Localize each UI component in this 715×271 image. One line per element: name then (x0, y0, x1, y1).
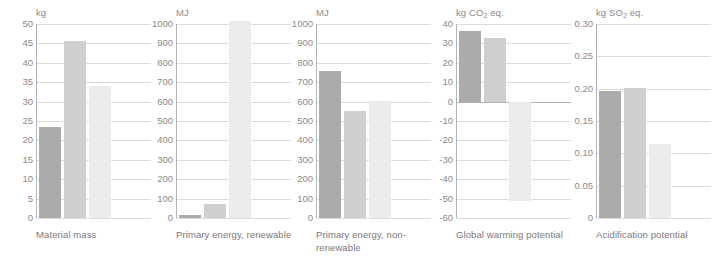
bar-series-3 (229, 21, 251, 218)
gridline (316, 218, 431, 219)
bar-series-1 (319, 71, 341, 218)
y-axis-tick-label: 0.05 (575, 181, 594, 191)
y-axis-tick-label: 300 (297, 155, 313, 165)
bar-series-1 (39, 127, 61, 218)
chart-panel-1: kg05101520253035404550Material mass (0, 0, 140, 271)
y-axis-tick-label: 0 (308, 213, 313, 223)
y-axis-tick-label: 500 (297, 116, 313, 126)
y-axis-tick-label: 0 (588, 213, 593, 223)
y-axis-tick-label: 35 (22, 77, 33, 87)
y-axis-tick-label: 0 (168, 213, 173, 223)
bar-group (317, 24, 412, 218)
y-axis-tick-label: 900 (297, 38, 313, 48)
y-axis-tick-label: 800 (297, 58, 313, 68)
gridline (176, 218, 291, 219)
gridline (456, 218, 571, 219)
y-axis-tick-label: 400 (157, 135, 173, 145)
y-axis-tick-label: 20 (22, 135, 33, 145)
y-axis-tick-label: 300 (157, 155, 173, 165)
y-axis-unit-label: kg CO2 eq. (456, 7, 504, 19)
bar-group (177, 24, 272, 218)
y-axis-tick-label: 600 (157, 97, 173, 107)
y-axis-tick-label: 15 (22, 155, 33, 165)
y-axis-tick-label: 1000 (152, 19, 173, 29)
y-axis-tick-label: 700 (157, 77, 173, 87)
bar-series-3 (509, 102, 531, 201)
y-axis-tick-label: 30 (22, 97, 33, 107)
chart-panel-2: MJ01002003004005006007008009001000Primar… (140, 0, 280, 271)
gridline (596, 218, 711, 219)
category-caption: Acidification potential (596, 229, 715, 242)
unit-main: MJ (176, 7, 189, 18)
y-axis-unit-label: MJ (316, 7, 329, 18)
y-axis-tick-label: 0.30 (575, 19, 594, 29)
y-axis-tick-label: -40 (439, 174, 453, 184)
y-axis-tick-label: 25 (22, 116, 33, 126)
plot-area: 05101520253035404550 (36, 24, 132, 218)
bar-series-1 (599, 91, 621, 218)
y-axis-tick-label: 30 (442, 38, 453, 48)
y-axis-tick-label: 50 (22, 19, 33, 29)
unit-main: kg CO (456, 7, 483, 18)
y-axis-tick-label: 10 (22, 174, 33, 184)
y-axis-tick-label: 400 (297, 135, 313, 145)
unit-tail: eq. (487, 7, 503, 18)
y-axis-tick-label: 20 (442, 58, 453, 68)
bar-group (37, 24, 132, 218)
plot-area: 00.050.100.150.200.250.30 (596, 24, 692, 218)
y-axis-tick-label: 0.10 (575, 148, 594, 158)
bar-series-3 (89, 86, 111, 218)
bar-series-1 (459, 31, 481, 102)
y-axis-tick-label: 700 (297, 77, 313, 87)
unit-main: MJ (316, 7, 329, 18)
y-axis-tick-label: 0.15 (575, 116, 594, 126)
y-axis-tick-label: 900 (157, 38, 173, 48)
y-axis-tick-label: 0 (28, 213, 33, 223)
unit-subscript: 2 (483, 12, 487, 19)
y-axis-tick-label: 1000 (292, 19, 313, 29)
y-axis-tick-label: -30 (439, 155, 453, 165)
bar-series-2 (64, 41, 86, 218)
y-axis-tick-label: -10 (439, 116, 453, 126)
y-axis-unit-label: MJ (176, 7, 189, 18)
bar-series-3 (369, 101, 391, 218)
y-axis-tick-label: 600 (297, 97, 313, 107)
y-axis-tick-label: -50 (439, 194, 453, 204)
unit-main: kg SO (596, 7, 623, 18)
bar-series-3 (649, 144, 671, 218)
y-axis-tick-label: 0 (448, 97, 453, 107)
unit-subscript: 2 (623, 12, 627, 19)
chart-panel-4: kg CO2 eq.-60-50-40-30-20-10010203040Glo… (420, 0, 560, 271)
bar-series-2 (624, 88, 646, 218)
unit-main: kg (36, 7, 46, 18)
y-axis-tick-label: 0.20 (575, 84, 594, 94)
bar-group (457, 24, 552, 218)
bar-series-1 (179, 215, 201, 218)
plot-area: -60-50-40-30-20-10010203040 (456, 24, 552, 218)
bar-series-2 (344, 111, 366, 218)
y-axis-unit-label: kg SO2 eq. (596, 7, 643, 19)
y-axis-tick-label: 10 (442, 77, 453, 87)
y-axis-tick-label: 100 (297, 194, 313, 204)
bar-series-2 (204, 204, 226, 218)
y-axis-tick-label: 800 (157, 58, 173, 68)
chart-panel-5: kg SO2 eq.00.050.100.150.200.250.30Acidi… (560, 0, 700, 271)
y-axis-tick-label: 200 (297, 174, 313, 184)
y-axis-tick-label: 40 (442, 19, 453, 29)
unit-tail: eq. (627, 7, 643, 18)
footer-cropped-text (0, 261, 701, 271)
y-axis-tick-label: 200 (157, 174, 173, 184)
y-axis-tick-label: 0.25 (575, 51, 594, 61)
y-axis-unit-label: kg (36, 7, 46, 18)
gridline (36, 218, 151, 219)
y-axis-tick-label: 500 (157, 116, 173, 126)
plot-area: 01002003004005006007008009001000 (176, 24, 272, 218)
y-axis-tick-label: 100 (157, 194, 173, 204)
y-axis-tick-label: 40 (22, 58, 33, 68)
plot-area: 01002003004005006007008009001000 (316, 24, 412, 218)
chart-panel-3: MJ01002003004005006007008009001000Primar… (280, 0, 420, 271)
y-axis-tick-label: 5 (28, 194, 33, 204)
y-axis-tick-label: 45 (22, 38, 33, 48)
y-axis-tick-label: -20 (439, 135, 453, 145)
